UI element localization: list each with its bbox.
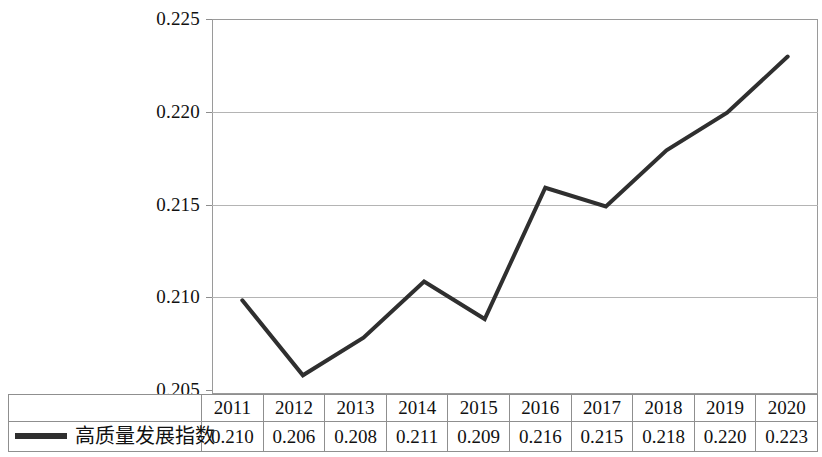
table-cell-value: 0.223 [756, 421, 818, 452]
y-axis-tick-label: 0.215 [156, 195, 200, 214]
y-axis-tick-label: 0.210 [156, 287, 200, 306]
table-cell-value: 0.208 [325, 421, 387, 452]
table-header-year: 2016 [510, 395, 572, 422]
table-header-year: 2019 [694, 395, 756, 422]
table-header-year: 2012 [263, 395, 325, 422]
table-cell-value: 0.216 [510, 421, 572, 452]
y-axis-tick-label: 0.220 [156, 102, 200, 121]
table-row-values: 高质量发展指数 0.210 0.206 0.208 0.211 0.209 0.… [9, 421, 818, 452]
legend-entry: 高质量发展指数 [9, 421, 202, 452]
table-cell-value: 0.220 [694, 421, 756, 452]
table-header-year: 2013 [325, 395, 387, 422]
table-header-year: 2018 [633, 395, 695, 422]
table-header-year: 2017 [571, 395, 633, 422]
table-corner-blank [9, 395, 202, 422]
table-header-year: 2011 [202, 395, 264, 422]
line-chart-with-data-table: 0.225 0.220 0.215 0.210 0.205 [0, 0, 822, 457]
data-table: 2011 2012 2013 2014 2015 2016 2017 2018 … [8, 394, 818, 452]
table-header-year: 2020 [756, 395, 818, 422]
table-cell-value: 0.209 [448, 421, 510, 452]
table-cell-value: 0.206 [263, 421, 325, 452]
table-cell-value: 0.211 [386, 421, 448, 452]
plot-area [212, 19, 818, 394]
series-line-high-quality-development-index [212, 19, 818, 394]
table-header-year: 2015 [448, 395, 510, 422]
table-cell-value: 0.215 [571, 421, 633, 452]
data-table-wrapper: 2011 2012 2013 2014 2015 2016 2017 2018 … [8, 394, 818, 452]
legend-series-label: 高质量发展指数 [75, 425, 215, 447]
table-row-years: 2011 2012 2013 2014 2015 2016 2017 2018 … [9, 395, 818, 422]
legend-line-swatch-icon [15, 433, 67, 439]
table-cell-value: 0.218 [633, 421, 695, 452]
y-axis-tick-label: 0.225 [156, 9, 200, 28]
table-header-year: 2014 [386, 395, 448, 422]
